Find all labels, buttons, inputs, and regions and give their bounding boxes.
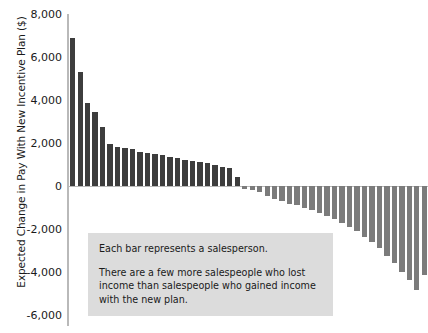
- explanation-annotation-box: Each bar represents a salesperson. There…: [88, 233, 333, 316]
- bar: [152, 154, 157, 186]
- bar: [377, 186, 382, 248]
- y-tick-label: -4,000: [10, 266, 62, 279]
- bar: [422, 186, 427, 275]
- bar: [294, 186, 299, 205]
- y-tick-label: 2,000: [10, 137, 62, 150]
- y-tick-label: 0: [10, 180, 62, 193]
- bar: [332, 186, 337, 219]
- bar: [115, 147, 120, 186]
- bar: [257, 186, 262, 192]
- bar: [250, 186, 255, 190]
- bar: [145, 153, 150, 186]
- bar-chart: Expected Change in Pay With New Incentiv…: [0, 0, 428, 333]
- bar: [167, 157, 172, 186]
- y-tick-label: 4,000: [10, 94, 62, 107]
- bar: [399, 186, 404, 272]
- bar: [190, 161, 195, 186]
- bar: [347, 186, 352, 227]
- bar: [130, 149, 135, 186]
- y-tick-label: -2,000: [10, 223, 62, 236]
- bar: [220, 167, 225, 186]
- y-tick-label: 6,000: [10, 51, 62, 64]
- bar: [122, 148, 127, 186]
- y-axis-tick-labels: 8,0006,0004,0002,0000-2,000-4,000-6,000: [10, 0, 62, 333]
- bar: [354, 186, 359, 231]
- y-tick-label: -6,000: [10, 309, 62, 322]
- bar: [324, 186, 329, 216]
- bar: [182, 160, 187, 186]
- bar: [317, 186, 322, 213]
- bar: [279, 186, 284, 201]
- bar: [414, 186, 419, 290]
- bar: [107, 144, 112, 186]
- bar: [100, 127, 105, 186]
- bar: [369, 186, 374, 242]
- bar: [70, 38, 75, 186]
- bar: [175, 158, 180, 186]
- bar: [227, 168, 232, 186]
- annotation-line-1: Each bar represents a salesperson.: [99, 242, 322, 255]
- bar: [265, 186, 270, 196]
- bar: [407, 186, 412, 280]
- bar: [384, 186, 389, 256]
- bar: [302, 186, 307, 208]
- bar: [197, 162, 202, 186]
- bar: [85, 103, 90, 186]
- bar: [92, 112, 97, 186]
- bar: [309, 186, 314, 210]
- bar: [392, 186, 397, 263]
- y-tick-label: 8,000: [10, 8, 62, 21]
- bar: [362, 186, 367, 237]
- bar: [235, 177, 240, 186]
- bar: [78, 72, 83, 186]
- annotation-line-2: There are a few more salespeople who los…: [99, 266, 322, 306]
- bar: [205, 163, 210, 186]
- bar: [339, 186, 344, 223]
- bar: [137, 152, 142, 186]
- bar: [212, 165, 217, 186]
- bar: [242, 186, 247, 189]
- bar: [272, 186, 277, 199]
- bar: [160, 155, 165, 186]
- bar: [287, 186, 292, 204]
